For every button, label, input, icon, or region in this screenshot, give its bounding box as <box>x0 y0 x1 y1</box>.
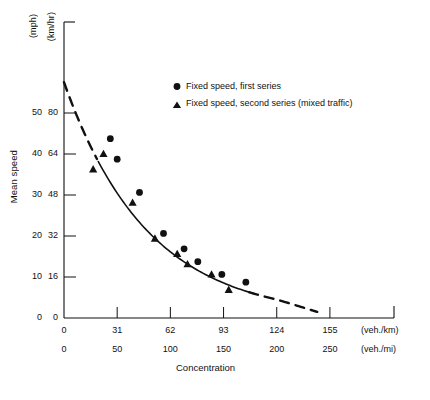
x-tick-label-vehmi-200: 200 <box>262 344 292 354</box>
legend-marker-triangle <box>173 102 181 109</box>
y-tick-label-mph-30: 30 <box>26 189 42 199</box>
y-tick-label-kmhr-16: 16 <box>44 271 58 281</box>
data-point-s1-6 <box>207 270 215 277</box>
x-unit-vehkm-label: (veh./km) <box>361 325 399 335</box>
x-tick-label-vehkm-155: 155 <box>315 325 345 335</box>
legend-marker-circle <box>174 83 181 90</box>
data-point-s1-2 <box>129 198 137 205</box>
data-point-s0-4 <box>181 245 188 252</box>
y-tick-label-mph-40: 40 <box>26 148 42 158</box>
x-tick-label-vehmi-150: 150 <box>209 344 239 354</box>
data-point-s0-0 <box>107 135 114 142</box>
x-tick-label-vehkm-0: 0 <box>49 325 79 335</box>
x-tick-label-vehmi-50: 50 <box>102 344 132 354</box>
y-unit-mph-label: (mph) <box>28 14 38 38</box>
data-point-s0-1 <box>114 156 121 163</box>
y-tick-label-mph-20: 20 <box>26 230 42 240</box>
fit-curve-dashed-0 <box>64 82 97 159</box>
x-axis-title: Concentration <box>176 362 235 373</box>
data-point-s0-3 <box>160 230 167 237</box>
x-tick-label-vehkm-62: 62 <box>155 325 185 335</box>
fit-curve-dashed-1 <box>249 292 317 312</box>
y-axis-title: Mean speed <box>8 150 19 203</box>
y-tick-label-kmhr-0: 0 <box>44 312 58 322</box>
data-point-s0-7 <box>242 279 249 286</box>
data-point-s1-0 <box>99 150 107 157</box>
y-tick-label-kmhr-32: 32 <box>44 230 58 240</box>
x-tick-label-vehmi-0: 0 <box>49 344 79 354</box>
speed-concentration-chart: 0102030405001632486480(mph)(km/hr)Mean s… <box>0 0 430 400</box>
x-tick-label-vehkm-31: 31 <box>102 325 132 335</box>
data-point-s1-4 <box>173 250 181 257</box>
y-tick-label-kmhr-48: 48 <box>44 189 58 199</box>
data-point-s1-1 <box>89 165 97 172</box>
data-point-s0-5 <box>194 258 201 265</box>
y-tick-label-mph-0: 0 <box>26 312 42 322</box>
x-tick-label-vehmi-100: 100 <box>155 344 185 354</box>
y-tick-label-mph-50: 50 <box>26 107 42 117</box>
fit-curve-solid <box>98 162 248 292</box>
legend-label-1: Fixed speed, second series (mixed traffi… <box>186 98 352 108</box>
x-tick-label-vehmi-250: 250 <box>315 344 345 354</box>
x-tick-label-vehkm-93: 93 <box>209 325 239 335</box>
y-tick-label-kmhr-64: 64 <box>44 148 58 158</box>
data-point-s0-6 <box>218 271 225 278</box>
chart-plot-area <box>0 0 430 400</box>
legend-label-0: Fixed speed, first series <box>186 81 281 91</box>
data-point-s0-2 <box>136 189 143 196</box>
data-point-s1-5 <box>183 260 191 267</box>
y-tick-label-mph-10: 10 <box>26 271 42 281</box>
x-unit-vehmi-label: (veh./mi) <box>361 344 396 354</box>
y-unit-kmhr-label: (km/hr) <box>46 12 56 41</box>
y-tick-label-kmhr-80: 80 <box>44 107 58 117</box>
x-tick-label-vehkm-124: 124 <box>262 325 292 335</box>
